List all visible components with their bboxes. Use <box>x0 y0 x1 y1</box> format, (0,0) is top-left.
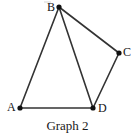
graph-figure: ABCD Graph 2 <box>0 0 135 136</box>
vertex-label-b: B <box>47 1 55 13</box>
graph-drawing <box>0 0 135 122</box>
vertex-label-c: C <box>123 46 131 58</box>
graph-edge-ab <box>20 7 59 108</box>
vertex-layer <box>17 4 121 110</box>
graph-edge-bc <box>59 7 119 53</box>
edge-layer <box>20 7 119 108</box>
graph-vertex-b <box>56 4 61 9</box>
graph-vertex-c <box>116 50 121 55</box>
graph-vertex-d <box>90 105 95 110</box>
graph-vertex-a <box>17 105 22 110</box>
graph-edge-bd <box>59 7 93 108</box>
graph-edge-cd <box>93 53 119 108</box>
vertex-label-a: A <box>7 101 16 113</box>
figure-caption: Graph 2 <box>0 118 135 134</box>
vertex-label-d: D <box>98 102 107 114</box>
